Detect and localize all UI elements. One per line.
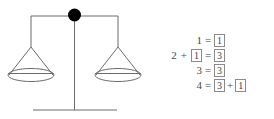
boxed-number: 1 <box>191 49 202 62</box>
equation-lhs: 3 <box>158 63 202 78</box>
left-pan-rim <box>8 69 54 82</box>
right-pan-rim <box>95 69 141 82</box>
equals-sign: = <box>202 35 214 46</box>
equation-lhs: 2 + 1 <box>158 48 202 63</box>
equation-rhs: 3 + 1 <box>214 78 246 93</box>
equation-row: 4 = 3 + 1 <box>158 78 274 93</box>
equation-rhs: 3 <box>214 63 225 78</box>
equation-rhs: 3 <box>214 48 225 63</box>
equation-rhs: 1 <box>214 33 225 48</box>
equation-row: 3 = 3 <box>158 63 274 78</box>
equals-sign: = <box>202 65 214 76</box>
balance-scale <box>0 0 150 119</box>
equation-lhs: 4 <box>158 78 202 93</box>
equation-lhs: 1 <box>158 33 202 48</box>
pivot-dot-icon <box>68 9 81 22</box>
balance-scale-drawing <box>0 0 150 119</box>
lhs-term: 2 <box>171 50 177 61</box>
boxed-number: 3 <box>214 49 225 62</box>
equation-list: 1 = 1 2 + 1 = 3 3 = 3 <box>158 33 274 93</box>
equals-sign: = <box>202 50 214 61</box>
plus-sign: + <box>179 50 189 61</box>
boxed-number: 1 <box>214 34 225 47</box>
boxed-number: 3 <box>214 79 225 92</box>
balance-scale-equation-figure: 1 = 1 2 + 1 = 3 3 = 3 <box>0 0 274 119</box>
equation-row: 2 + 1 = 3 <box>158 48 274 63</box>
boxed-number: 3 <box>214 64 225 77</box>
equals-sign: = <box>202 80 214 91</box>
equation-row: 1 = 1 <box>158 33 274 48</box>
plus-sign: + <box>227 80 233 91</box>
boxed-number: 1 <box>235 79 246 92</box>
